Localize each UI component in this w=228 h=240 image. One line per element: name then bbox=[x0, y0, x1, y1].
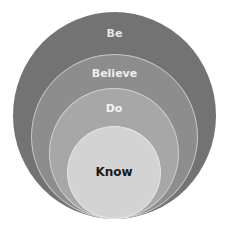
label-believe: Believe bbox=[32, 67, 197, 80]
label-do: Do bbox=[50, 102, 178, 115]
label-know: Know bbox=[68, 165, 160, 179]
circle-know: Know bbox=[67, 126, 161, 219]
label-be: Be bbox=[13, 27, 216, 40]
